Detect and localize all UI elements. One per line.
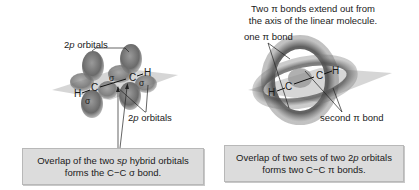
label-suffix: orbitals: [75, 39, 108, 50]
left-p-lobe-front-1: [98, 81, 118, 99]
left-caption-line2: forms the C−C σ bond.: [23, 167, 203, 179]
left-caption-line1: Overlap of the two sp hybrid orbitals: [23, 155, 203, 167]
second-pi-bond-label: second π bond: [320, 113, 384, 123]
cc-sigma-label: σ: [109, 74, 114, 83]
caption-text: hybrid orbitals: [127, 155, 189, 166]
right-caption-line2: forms two C−C π bonds.: [225, 164, 403, 176]
right-panel-left-h-atom: H: [268, 88, 275, 98]
bottom-2p-orbitals-label: 2p orbitals: [128, 113, 172, 123]
left-c-atom: C: [91, 83, 98, 93]
caption-italic: sp: [117, 155, 127, 166]
right-header-line2: the axis of the linear molecule.: [238, 16, 388, 26]
right-panel-right-h-atom: H: [332, 66, 339, 76]
right-panel-right-c-atom: C: [316, 71, 323, 81]
caption-text: Overlap of two sets of two 2: [236, 152, 353, 163]
left-h-atom: H: [74, 89, 81, 99]
right-panel-left-c-atom: C: [285, 82, 292, 92]
caption-text: orbitals: [359, 152, 392, 163]
caption-text: Overlap of the two: [37, 155, 117, 166]
one-pi-bond-label: one π bond: [244, 32, 293, 42]
right-c-atom: C: [129, 73, 136, 83]
right-header-line1: Two π bonds extend out from: [238, 4, 388, 14]
left-caption-box: Overlap of the two sp hybrid orbitals fo…: [22, 148, 204, 185]
ch-right-sigma-label: σ: [139, 79, 144, 88]
right-h-atom: H: [144, 68, 151, 78]
top-2p-orbitals-label: 2p orbitals: [64, 40, 108, 50]
ch-left-sigma-label: σ: [85, 97, 90, 106]
label-suffix: orbitals: [139, 112, 172, 123]
right-caption-line1: Overlap of two sets of two 2p orbitals: [225, 152, 403, 164]
right-caption-box: Overlap of two sets of two 2p orbitals f…: [224, 145, 404, 182]
